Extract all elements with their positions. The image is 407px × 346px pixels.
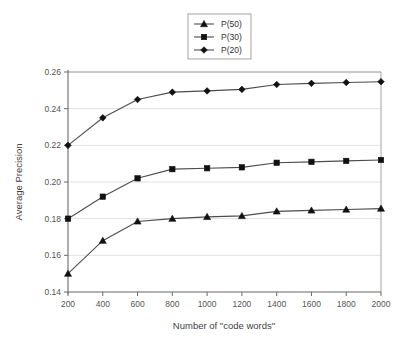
x-tick-label: 1600 — [302, 299, 321, 309]
series-p20 — [65, 78, 385, 148]
y-tick-label: 0.22 — [44, 140, 61, 150]
gridlines — [68, 72, 381, 255]
data-point-marker — [239, 86, 246, 93]
data-point-marker — [201, 34, 206, 39]
data-point-marker — [378, 157, 383, 162]
x-axis-ticks: 200400600800100012001400160018002000 — [61, 292, 391, 309]
series-line — [68, 82, 381, 146]
y-tick-label: 0.26 — [44, 67, 61, 77]
data-point-marker — [239, 165, 244, 170]
x-tick-label: 600 — [130, 299, 144, 309]
y-axis-ticks: 0.140.160.180.200.220.240.26 — [44, 67, 68, 297]
data-point-marker — [274, 160, 279, 165]
y-tick-label: 0.14 — [44, 287, 61, 297]
x-tick-label: 800 — [165, 299, 179, 309]
x-tick-label: 1000 — [198, 299, 217, 309]
data-point-marker — [100, 194, 105, 199]
data-point-marker — [65, 216, 70, 221]
y-tick-label: 0.16 — [44, 250, 61, 260]
data-point-marker — [169, 89, 176, 96]
x-tick-label: 2000 — [372, 299, 391, 309]
legend-entry-label: P(30) — [221, 32, 242, 42]
data-point-marker — [309, 159, 314, 164]
x-tick-label: 1800 — [337, 299, 356, 309]
data-point-marker — [99, 237, 106, 243]
data-point-marker — [204, 88, 211, 95]
legend-entry-label: P(20) — [221, 45, 242, 55]
legend: P(50)P(30)P(20) — [188, 14, 251, 59]
x-tick-label: 400 — [96, 299, 110, 309]
data-point-marker — [134, 96, 141, 103]
x-axis-title: Number of "code words" — [173, 320, 275, 331]
y-tick-label: 0.18 — [44, 214, 61, 224]
legend-entry-label: P(50) — [221, 19, 242, 29]
x-tick-label: 1200 — [232, 299, 251, 309]
data-point-marker — [343, 79, 350, 86]
data-point-marker — [170, 166, 175, 171]
data-point-marker — [378, 78, 385, 85]
y-tick-label: 0.24 — [44, 104, 61, 114]
data-point-marker — [135, 176, 140, 181]
y-axis-title: Average Precision — [13, 144, 24, 221]
series-p50 — [65, 205, 385, 276]
average-precision-line-chart: 0.140.160.180.200.220.240.26 20040060080… — [0, 0, 407, 346]
data-point-marker — [204, 166, 209, 171]
series-p30 — [65, 157, 383, 221]
data-point-marker — [308, 80, 315, 87]
data-point-marker — [273, 81, 280, 88]
y-tick-label: 0.20 — [44, 177, 61, 187]
data-point-marker — [344, 158, 349, 163]
x-tick-label: 200 — [61, 299, 75, 309]
series-group — [65, 78, 385, 276]
chart-container: 0.140.160.180.200.220.240.26 20040060080… — [0, 0, 407, 346]
x-tick-label: 1400 — [267, 299, 286, 309]
